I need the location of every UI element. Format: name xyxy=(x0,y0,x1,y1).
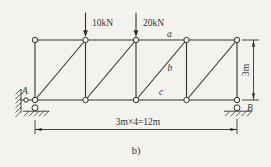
member-label-b: b xyxy=(168,63,173,73)
load-10kn: 10kN xyxy=(83,13,113,37)
dimension-span-label: 3m×4=12m xyxy=(116,117,161,127)
joint-top-1 xyxy=(32,37,37,42)
joint-top-4 xyxy=(184,37,189,42)
figure-caption: b) xyxy=(132,145,141,157)
dimension-height: 3m xyxy=(241,40,260,100)
joint-bottom-1 xyxy=(32,97,37,102)
dim-arrow-left xyxy=(35,128,42,131)
joint-bottom-3 xyxy=(133,97,138,102)
truss-members xyxy=(35,40,237,100)
support-label-a: A xyxy=(21,86,28,96)
load-arrow-head-1 xyxy=(83,30,88,37)
diagonal-member-1 xyxy=(35,40,86,100)
truss-diagram-svg: A B xyxy=(0,0,271,167)
diagonal-member-2 xyxy=(86,40,137,100)
dim-arrow-right xyxy=(230,128,237,131)
load-20kn: 20kN xyxy=(134,13,165,37)
load-label-1: 10kN xyxy=(92,18,113,28)
member-label-a: a xyxy=(167,29,172,39)
joint-top-5 xyxy=(234,37,239,42)
wall-hatching xyxy=(16,89,22,117)
dim-arrow-up xyxy=(252,40,255,47)
joint-bottom-5 xyxy=(234,97,239,102)
dimension-span: 3m×4=12m xyxy=(35,117,237,135)
truss-figure: A B xyxy=(0,0,271,167)
joint-bottom-4 xyxy=(184,97,189,102)
diagonal-member-4 xyxy=(187,40,238,100)
joint-bottom-2 xyxy=(83,97,88,102)
joint-top-2 xyxy=(83,37,88,42)
support-label-b: B xyxy=(247,103,253,113)
roller-left xyxy=(32,105,38,111)
ground-hatching-left xyxy=(24,111,49,116)
support-right-roller: B xyxy=(224,103,253,117)
member-label-c: c xyxy=(159,87,164,97)
joint-top-3 xyxy=(133,37,138,42)
dimension-height-label: 3m xyxy=(241,63,251,76)
roller-right xyxy=(234,105,240,111)
load-label-2: 20kN xyxy=(143,18,164,28)
wall-link-hinge xyxy=(24,98,28,102)
load-arrow-head-2 xyxy=(134,30,139,37)
dim-arrow-down xyxy=(252,93,255,100)
